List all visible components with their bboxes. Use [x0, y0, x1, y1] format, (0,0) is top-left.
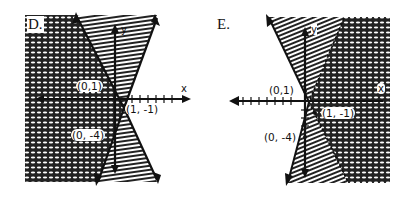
graph-e: E. y x (0,1) (1, -1) (0, -4): [205, 0, 410, 199]
graph-label: D.: [27, 16, 44, 33]
x-axis-label: x: [377, 83, 385, 94]
graph-e-plot: [205, 0, 410, 199]
point-label-1-neg1: (1, -1): [321, 107, 355, 119]
point-label-0-neg4: (0, -4): [263, 131, 297, 143]
graph-label: E.: [217, 16, 230, 33]
y-axis-label: y: [311, 24, 317, 35]
x-axis-label: x: [181, 83, 187, 94]
point-label-1-neg1: (1, -1): [125, 103, 159, 115]
point-label-0-1: (0,1): [268, 84, 295, 96]
point-label-0-neg4: (0, -4): [71, 129, 105, 141]
y-axis-label: y: [121, 24, 127, 35]
graph-d: D. y x (0,1) (1, -1) (0, -4): [0, 0, 205, 199]
point-label-0-1: (0,1): [76, 80, 103, 92]
